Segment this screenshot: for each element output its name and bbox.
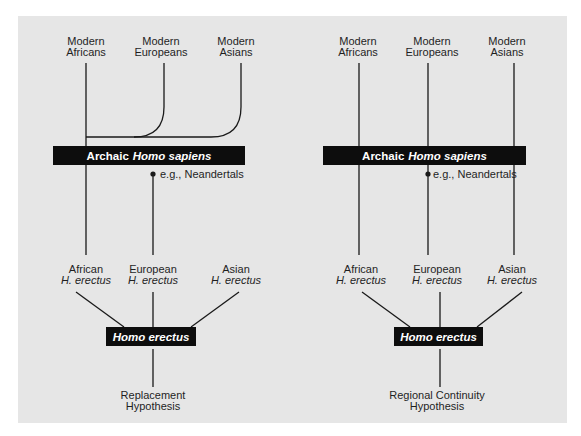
modern-asians-label: Modern Asians: [488, 36, 525, 58]
neandertal-dot: [150, 171, 155, 176]
label-line: H. erectus: [128, 275, 178, 286]
modern-asians-label: Modern Asians: [217, 36, 254, 58]
label-line: Asians: [217, 47, 254, 58]
modern-africans-label: Modern Africans: [66, 36, 106, 58]
bar-species: Homo sapiens: [133, 150, 212, 162]
african-erectus-label: African H. erectus: [61, 264, 111, 286]
regional-continuity-caption: Regional Continuity Hypothesis: [389, 390, 484, 412]
label-line: H. erectus: [61, 275, 111, 286]
label-line: Asians: [488, 47, 525, 58]
archaic-homo-sapiens-bar: Archaic Homo sapiens: [323, 146, 526, 165]
bar-species: Homo sapiens: [408, 150, 487, 162]
bar-prefix: Archaic: [87, 150, 129, 162]
label-line: H. erectus: [336, 275, 386, 286]
archaic-homo-sapiens-bar: Archaic Homo sapiens: [53, 146, 245, 165]
label-line: Africans: [66, 47, 106, 58]
label-line: H. erectus: [211, 275, 261, 286]
african-erectus-connector: [76, 292, 124, 327]
european-erectus-label: European H. erectus: [128, 264, 178, 286]
african-erectus-connector: [362, 292, 410, 327]
modern-europeans-label: Modern Europeans: [134, 36, 187, 58]
replacement-caption: Replacement Hypothesis: [121, 390, 186, 412]
label-line: Europeans: [405, 47, 458, 58]
bar-prefix: Archaic: [362, 150, 404, 162]
diagram-lines: [0, 0, 581, 436]
neandertal-note: e.g., Neandertals: [160, 169, 244, 180]
african-erectus-label: African H. erectus: [336, 264, 386, 286]
asians-branch-line: [134, 63, 241, 137]
homo-erectus-box: Homo erectus: [106, 327, 196, 346]
neandertal-note: e.g., Neandertals: [433, 169, 517, 180]
neandertal-dot: [425, 171, 430, 176]
modern-africans-label: Modern Africans: [338, 36, 378, 58]
asian-erectus-label: Asian H. erectus: [487, 264, 537, 286]
caption-line: Hypothesis: [389, 401, 484, 412]
label-line: Africans: [338, 47, 378, 58]
label-line: H. erectus: [487, 275, 537, 286]
label-line: Europeans: [134, 47, 187, 58]
european-erectus-label: European H. erectus: [412, 264, 462, 286]
homo-erectus-box: Homo erectus: [394, 327, 483, 346]
asian-erectus-connector: [191, 292, 239, 327]
asian-erectus-connector: [477, 292, 522, 327]
modern-europeans-label: Modern Europeans: [405, 36, 458, 58]
europeans-branch-line: [86, 63, 164, 137]
label-line: H. erectus: [412, 275, 462, 286]
caption-line: Hypothesis: [121, 401, 186, 412]
asian-erectus-label: Asian H. erectus: [211, 264, 261, 286]
